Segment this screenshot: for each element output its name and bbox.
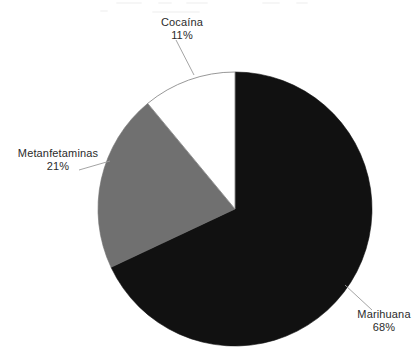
pie-label-marihuana: Marihuana 68% [350,308,418,334]
pie-label-cocaina-name: Cocaína [140,16,224,29]
leader-line-marihuana [345,285,372,310]
pie-label-marihuana-value: 68% [350,321,418,334]
pie-chart [0,0,419,359]
leader-line-cocaina [176,40,194,75]
pie-label-metanfetaminas-value: 21% [12,160,104,173]
pie-label-cocaina-value: 11% [140,29,224,42]
pie-label-cocaina: Cocaína 11% [140,16,224,42]
chart-page: Cocaína 11% Metanfetaminas 21% Marihuana… [0,0,419,359]
pie-label-marihuana-name: Marihuana [350,308,418,321]
pie-label-metanfetaminas: Metanfetaminas 21% [12,147,104,173]
pie-label-metanfetaminas-name: Metanfetaminas [12,147,104,160]
